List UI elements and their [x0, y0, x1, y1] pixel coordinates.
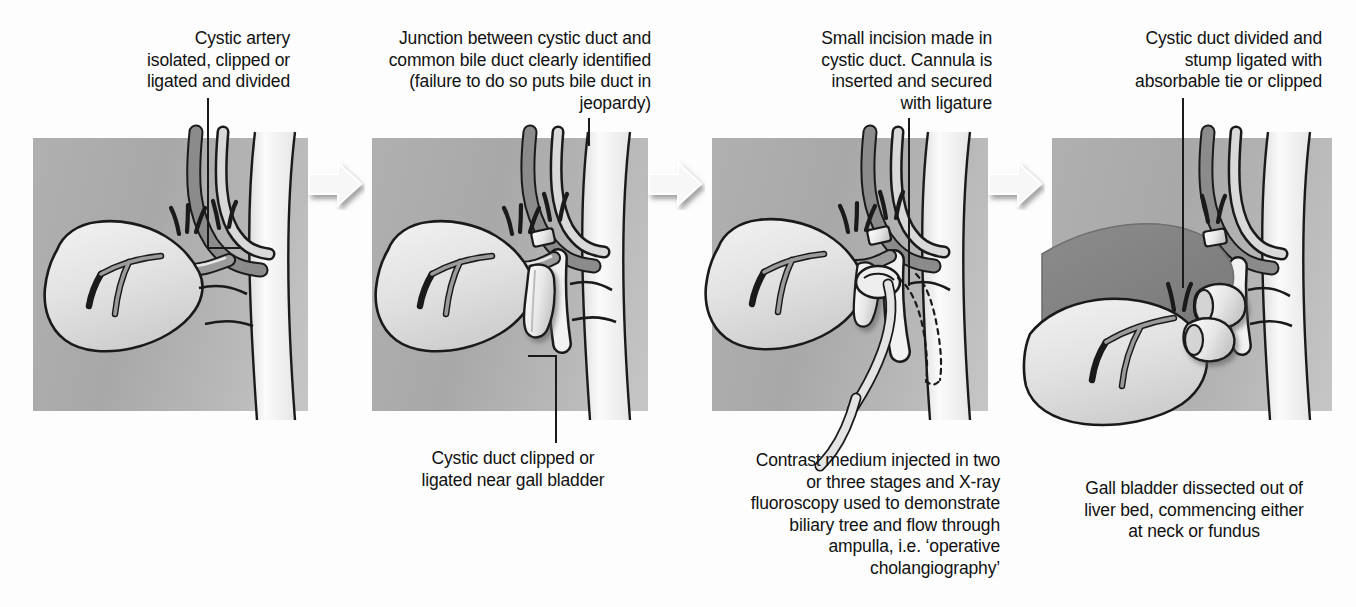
step-panel-2 — [372, 138, 648, 411]
caption-step-3-top: Small incision made in cystic duct. Cann… — [722, 28, 992, 114]
common-bile-duct-2 — [557, 258, 562, 344]
cystic-artery-clip-4 — [1203, 228, 1227, 247]
caption-step-4-bottom: Gall bladder dissected out of liver bed,… — [1044, 478, 1344, 543]
flow-arrow-3 — [985, 158, 1045, 210]
caption-step-3-bottom: Contrast medium injected in two or three… — [694, 450, 1000, 579]
arrow-right-icon — [645, 158, 705, 210]
leader-line-step-1-vertical — [207, 98, 209, 248]
duodenum-outline-1 — [199, 286, 253, 326]
gall-bladder-4 — [1024, 299, 1207, 425]
flow-arrow-2 — [645, 158, 705, 210]
gall-bladder-3 — [706, 219, 864, 349]
illustration-step-3 — [712, 138, 988, 411]
leader-line-step-2-bottom — [555, 355, 557, 443]
step-panel-1 — [33, 138, 308, 411]
step-panel-3 — [712, 138, 988, 411]
gall-bladder-neck-clip-4 — [1184, 318, 1235, 361]
gall-bladder-2 — [376, 221, 534, 351]
leader-line-step-3-top — [908, 118, 910, 286]
arrow-right-icon — [985, 158, 1045, 210]
duodenum-2 — [582, 132, 630, 420]
leader-line-step-2-top — [588, 118, 590, 146]
caption-step-2-bottom: Cystic duct clipped or ligated near gall… — [368, 448, 658, 491]
gall-bladder-1 — [45, 221, 203, 351]
cystic-artery-clip-2 — [531, 228, 556, 247]
illustration-step-4 — [1052, 138, 1332, 411]
leader-line-step-2-bottom-hook — [528, 355, 556, 357]
caption-step-4-top: Cystic duct divided and stump ligated wi… — [1048, 28, 1322, 93]
duodenum-4 — [1262, 132, 1310, 420]
flow-arrow-1 — [305, 158, 365, 210]
step-panel-4 — [1052, 138, 1332, 411]
illustration-step-2 — [372, 138, 648, 411]
caption-step-2-top: Junction between cystic duct and common … — [355, 28, 651, 114]
leader-line-step-1-horizontal — [207, 247, 242, 249]
illustration-step-1 — [33, 138, 308, 411]
duodenum-3 — [922, 132, 970, 420]
leader-line-step-4-top — [1182, 98, 1184, 288]
cystic-artery-clip-3 — [867, 226, 892, 245]
arrow-right-icon — [305, 158, 365, 210]
caption-step-1-top: Cystic artery isolated, clipped or ligat… — [60, 28, 290, 93]
figure-canvas: Cystic artery isolated, clipped or ligat… — [0, 0, 1356, 607]
